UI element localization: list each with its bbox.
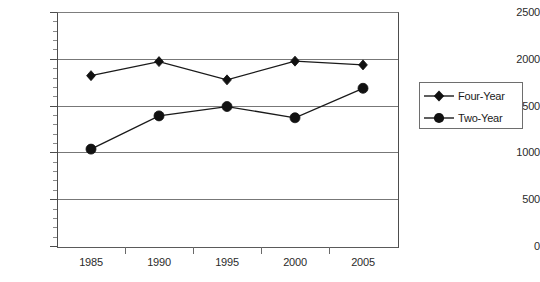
data-point-marker	[222, 102, 232, 112]
data-point-marker	[223, 75, 232, 85]
data-point-marker	[86, 144, 96, 154]
data-point-marker	[87, 71, 96, 81]
data-series-layer	[0, 0, 540, 282]
data-point-marker	[155, 57, 164, 67]
circle-marker-icon	[420, 108, 458, 128]
data-point-marker	[290, 113, 300, 123]
data-point-marker	[154, 111, 164, 121]
data-point-marker	[291, 56, 300, 66]
data-point-marker	[358, 83, 368, 93]
diamond-marker-icon	[420, 86, 458, 106]
data-point-marker	[359, 60, 368, 70]
legend-label-two-year: Two-Year	[458, 112, 502, 124]
line-chart-figure: 05001000150020002500 1985199019952000200…	[0, 0, 540, 282]
series-line-two-year	[91, 88, 363, 149]
legend-label-four-year: Four-Year	[458, 90, 505, 102]
legend-item-four-year[interactable]: Four-Year	[420, 84, 524, 107]
legend-item-two-year[interactable]: Two-Year	[420, 106, 524, 129]
legend[interactable]: Four-Year Two-Year	[419, 82, 523, 129]
